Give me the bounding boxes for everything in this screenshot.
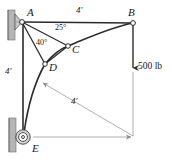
- point-label-E: E: [32, 143, 39, 154]
- load-label-500lb: 500 lb: [138, 62, 162, 72]
- statics-figure: A B C D E 25° 40° 4' 4' 4' 500 lb: [0, 0, 172, 162]
- angle-label-25: 25°: [55, 24, 66, 32]
- wall-surface-bottom: [9, 118, 16, 152]
- angle-label-40: 40°: [36, 39, 47, 47]
- dimension-label-top: 4': [76, 6, 82, 15]
- member-cable-A-B: [22, 22, 133, 23]
- point-label-C: C: [72, 44, 79, 55]
- point-label-A: A: [27, 7, 34, 18]
- dimension-lines-group: [15, 22, 133, 137]
- node-A: [20, 20, 25, 25]
- point-label-D: D: [49, 62, 57, 73]
- dimension-label-left: 4': [5, 67, 11, 76]
- dimension-label-diagonal: 4': [71, 97, 77, 106]
- wall-surface-top: [8, 10, 15, 40]
- point-label-B: B: [128, 7, 135, 18]
- cable-segment-E-D: [24, 64, 45, 133]
- node-B: [131, 21, 136, 26]
- dimension-line-diagonal: [43, 83, 133, 136]
- node-D: [43, 62, 48, 67]
- node-C: [66, 44, 71, 49]
- pulley-E-icon: [16, 130, 30, 144]
- diagram-canvas: [0, 0, 172, 162]
